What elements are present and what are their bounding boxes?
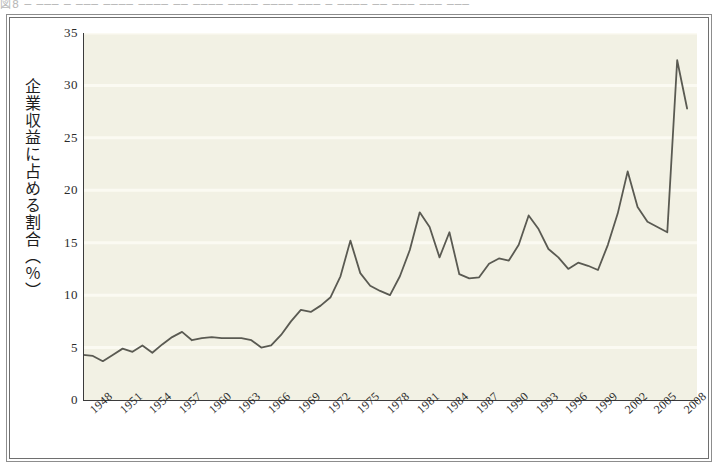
x-tick-label: 1972: [325, 389, 354, 417]
x-tick-label: 1948: [87, 389, 116, 417]
x-axis-ticks: 1948195119541957196019631966196919721975…: [0, 0, 720, 470]
x-tick-label: 1990: [503, 389, 532, 417]
x-tick-label: 1996: [562, 389, 591, 417]
x-tick-label: 1987: [473, 389, 502, 417]
x-tick-label: 1981: [414, 389, 443, 417]
x-tick-label: 1954: [146, 389, 175, 417]
x-tick-label: 1960: [206, 389, 235, 417]
x-tick-label: 1978: [384, 389, 413, 417]
x-tick-label: 2005: [651, 389, 680, 417]
x-tick-label: 1993: [533, 389, 562, 417]
x-tick-label: 1975: [354, 389, 383, 417]
x-tick-label: 1969: [295, 389, 324, 417]
x-tick-label: 2008: [681, 389, 710, 417]
x-tick-label: 2002: [622, 389, 651, 417]
x-tick-label: 1999: [592, 389, 621, 417]
x-tick-label: 1951: [117, 389, 146, 417]
x-tick-label: 1984: [443, 389, 472, 417]
x-tick-label: 1966: [265, 389, 294, 417]
figure-container: 図8 ─ ─── ─ ─── ──── ──── ── ──── ──── ──…: [0, 0, 720, 470]
x-tick-label: 1957: [176, 389, 205, 417]
x-tick-label: 1963: [235, 389, 264, 417]
